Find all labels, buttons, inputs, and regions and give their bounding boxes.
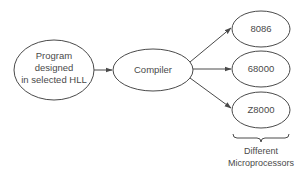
edge-compiler-to-8086 bbox=[190, 28, 231, 62]
target-label-z8000: Z8000 bbox=[248, 104, 275, 115]
edge-compiler-to-z8000 bbox=[190, 78, 231, 108]
compiler-label: Compiler bbox=[134, 64, 172, 75]
compilation-diagram: Program designed in selected HLL Compile… bbox=[0, 0, 306, 177]
source-line-3: in selected HLL bbox=[21, 74, 86, 85]
target-node-68000: 68000 bbox=[232, 51, 290, 87]
target-node-z8000: Z8000 bbox=[232, 92, 290, 128]
source-program-node: Program designed in selected HLL bbox=[14, 40, 94, 100]
caption-line-1: Different bbox=[244, 146, 278, 156]
grouping-brace-icon bbox=[233, 134, 289, 142]
source-line-2: designed bbox=[35, 62, 74, 73]
caption-line-2: Microprocessors bbox=[228, 158, 295, 168]
target-node-8086: 8086 bbox=[232, 11, 290, 47]
target-label-8086: 8086 bbox=[250, 23, 271, 34]
compiler-node: Compiler bbox=[113, 49, 193, 91]
target-label-68000: 68000 bbox=[248, 63, 274, 74]
source-line-1: Program bbox=[36, 50, 73, 61]
